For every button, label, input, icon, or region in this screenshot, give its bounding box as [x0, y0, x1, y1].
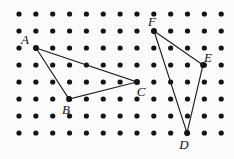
- lattice-dot: [219, 45, 224, 50]
- lattice-dot: [134, 11, 139, 16]
- lattice-dot: [50, 79, 55, 84]
- lattice-dot: [16, 130, 21, 135]
- lattice-dot: [33, 28, 38, 33]
- lattice-dot: [101, 130, 106, 135]
- lattice-dot: [33, 79, 38, 84]
- lattice-dot: [101, 113, 106, 118]
- lattice-dot: [134, 130, 139, 135]
- lattice-dot: [168, 62, 173, 67]
- lattice-dot: [50, 113, 55, 118]
- lattice-dot: [84, 130, 89, 135]
- vertex-label-e: E: [203, 50, 212, 65]
- lattice-dot: [134, 113, 139, 118]
- lattice-dot: [101, 79, 106, 84]
- lattice-dot: [168, 28, 173, 33]
- vertex-label-b: B: [62, 102, 70, 117]
- lattice-dot: [101, 11, 106, 16]
- lattice-dot: [202, 113, 207, 118]
- figure-canvas: ABCDEF: [0, 0, 234, 159]
- lattice-dot: [101, 28, 106, 33]
- lattice-dot: [168, 96, 173, 101]
- lattice-dot: [118, 96, 123, 101]
- lattice-dot: [50, 62, 55, 67]
- lattice-dot: [185, 79, 190, 84]
- lattice-dot: [16, 11, 21, 16]
- vertex-dot-a: [33, 45, 39, 51]
- vertex-dot-d: [184, 130, 190, 136]
- lattice-dot: [202, 130, 207, 135]
- lattice-dot: [219, 79, 224, 84]
- lattice-dot: [67, 62, 72, 67]
- lattice-dot: [185, 113, 190, 118]
- lattice-dot: [84, 11, 89, 16]
- lattice-dot: [50, 130, 55, 135]
- lattice-dot: [151, 45, 156, 50]
- lattice-dot: [134, 28, 139, 33]
- lattice-dot: [50, 45, 55, 50]
- lattice-dot: [185, 11, 190, 16]
- lattice-dot: [67, 11, 72, 16]
- lattice-dot: [50, 96, 55, 101]
- lattice-dot: [101, 45, 106, 50]
- lattice-dot: [33, 130, 38, 135]
- lattice-dot: [33, 11, 38, 16]
- lattice-dot: [67, 28, 72, 33]
- lattice-dot: [185, 96, 190, 101]
- dot-lattice-figure: ABCDEF: [0, 0, 234, 159]
- lattice-dot: [118, 79, 123, 84]
- lattice-dot: [219, 96, 224, 101]
- lattice-dot: [219, 28, 224, 33]
- lattice-dot: [202, 28, 207, 33]
- lattice-dot: [84, 96, 89, 101]
- lattice-dot: [202, 79, 207, 84]
- lattice-dot: [118, 113, 123, 118]
- lattice-dot: [16, 96, 21, 101]
- lattice-dot: [168, 130, 173, 135]
- lattice-dot: [185, 28, 190, 33]
- lattice-dot: [118, 45, 123, 50]
- lattice-dot: [16, 62, 21, 67]
- lattice-dot: [67, 79, 72, 84]
- lattice-dot: [202, 96, 207, 101]
- lattice-dot: [67, 130, 72, 135]
- lattice-dot: [134, 45, 139, 50]
- lattice-dot: [151, 62, 156, 67]
- lattice-dot: [118, 11, 123, 16]
- lattice-dot: [168, 11, 173, 16]
- lattice-dot: [202, 11, 207, 16]
- lattice-dot: [185, 62, 190, 67]
- lattice-dot: [84, 79, 89, 84]
- lattice-dot: [118, 28, 123, 33]
- lattice-dot: [118, 62, 123, 67]
- lattice-dot: [50, 11, 55, 16]
- lattice-dot: [151, 79, 156, 84]
- lattice-dot: [33, 62, 38, 67]
- lattice-dot: [151, 113, 156, 118]
- lattice-dot: [151, 96, 156, 101]
- lattice-dot: [84, 113, 89, 118]
- vertex-label-d: D: [178, 137, 189, 152]
- lattice-dot: [67, 45, 72, 50]
- lattice-dot: [84, 28, 89, 33]
- lattice-dot: [219, 113, 224, 118]
- lattice-dot: [219, 62, 224, 67]
- lattice-dot: [101, 62, 106, 67]
- lattice-dot: [185, 45, 190, 50]
- lattice-dot: [84, 45, 89, 50]
- vertex-label-c: C: [137, 84, 146, 99]
- lattice-dot: [219, 130, 224, 135]
- lattice-dot: [134, 62, 139, 67]
- lattice-dot: [168, 113, 173, 118]
- lattice-dot: [16, 113, 21, 118]
- lattice-dot: [118, 130, 123, 135]
- lattice-dot: [168, 45, 173, 50]
- vertex-label-f: F: [147, 14, 157, 29]
- vertex-label-a: A: [20, 32, 29, 47]
- lattice-dot: [33, 96, 38, 101]
- lattice-dot: [33, 113, 38, 118]
- lattice-dot: [16, 79, 21, 84]
- lattice-dot: [50, 28, 55, 33]
- lattice-dot: [151, 130, 156, 135]
- lattice-dot: [101, 96, 106, 101]
- lattice-dot: [219, 11, 224, 16]
